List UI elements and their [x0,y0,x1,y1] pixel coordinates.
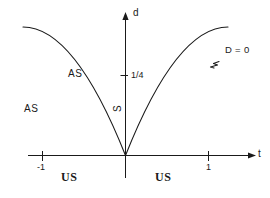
x-tick-label-1: 1 [206,163,211,172]
region-label-us-right: US [155,171,171,183]
y-tick-label-one-quarter: 1/4 [131,71,144,80]
x-axis [28,152,256,158]
x-axis-label: t [258,149,261,159]
region-label-s: S [113,105,123,112]
zigzag-leader-icon [211,62,220,69]
y-axis [122,12,128,178]
region-label-us-left: US [61,171,77,183]
curve-label-d-equals-zero: D = 0 [225,45,249,55]
y-axis-label: d [133,8,139,18]
region-label-as-upper: AS [68,69,83,79]
x-tick-label-minus-1: -1 [37,163,45,172]
stability-diagram-figure: d t -1 1 1/4 AS AS S US US D = 0 [0,0,270,198]
region-label-as-left: AS [24,104,39,114]
